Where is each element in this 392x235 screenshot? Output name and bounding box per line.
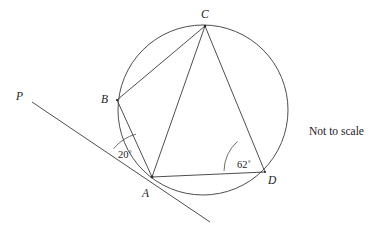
segment-ad [152,172,265,177]
tangent-line-pa [32,102,210,222]
circle-outline [118,25,288,195]
point-label-b: B [101,94,108,106]
point-label-d: D [268,175,276,187]
angle-arc-at-d [224,141,238,171]
vertex-dot-d [264,171,266,173]
vertex-dot-a [151,176,154,179]
vertex-dot-c [204,25,207,28]
angle-label-20-degrees: 20˚ [118,150,132,161]
angle-arc-at-a [114,134,136,149]
vertex-dot-b [116,99,118,101]
geometry-figure [0,0,392,235]
point-label-c: C [201,9,209,21]
point-label-p: P [16,91,23,103]
segment-cd [205,26,265,172]
segment-ab [117,100,152,177]
point-label-a: A [142,188,149,200]
not-to-scale-note: Not to scale [309,126,364,138]
diagram-canvas: P B C A D 20˚ 62˚ Not to scale [0,0,392,235]
angle-label-62-degrees: 62˚ [237,160,251,171]
